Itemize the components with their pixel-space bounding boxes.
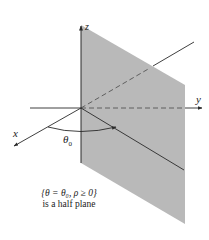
angle-label: θ0	[63, 134, 72, 148]
back-line-visible	[153, 42, 194, 66]
caption-set-notation: {θ = θ₀, ρ ≥ 0}	[24, 188, 114, 199]
x-axis-label: x	[13, 128, 18, 139]
caption: {θ = θ₀, ρ ≥ 0} is a half plane	[24, 188, 114, 210]
caption-description: is a half plane	[24, 199, 114, 210]
z-axis-label: z	[85, 22, 89, 32]
y-axis-label: y	[196, 94, 201, 105]
angle-subscript: 0	[68, 140, 72, 148]
